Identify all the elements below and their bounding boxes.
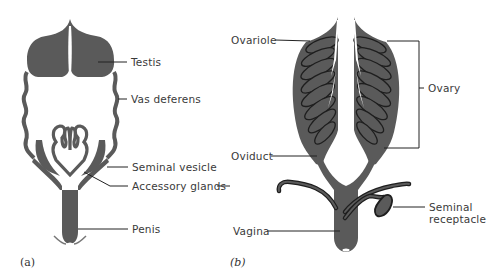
label-seminal-receptacle-line1: Seminal [429, 201, 473, 213]
female-reproductive-system [267, 17, 425, 252]
male-reproductive-system [24, 19, 230, 246]
vas-deferens-right [107, 72, 117, 158]
label-vagina: Vagina [233, 225, 270, 237]
label-testis: Testis [131, 56, 161, 68]
label-seminal-vesicle: Seminal vesicle [132, 161, 217, 173]
panel-a-tag: (a) [20, 256, 35, 269]
panel-b-tag: (b) [230, 256, 246, 269]
vas-deferens-left [24, 72, 34, 158]
label-accessory-glands: Accessory glands [132, 180, 226, 192]
label-ovariole: Ovariole [231, 34, 277, 46]
label-oviduct: Oviduct [231, 150, 273, 162]
accessory-glands [53, 126, 87, 175]
oviduct-vagina-shape [316, 158, 376, 252]
penis-shape [32, 158, 109, 244]
label-seminal-receptacle-line2: receptacle [429, 213, 486, 225]
label-penis: Penis [132, 223, 160, 235]
label-vas-deferens: Vas deferens [131, 93, 201, 105]
label-ovary: Ovary [428, 82, 460, 94]
